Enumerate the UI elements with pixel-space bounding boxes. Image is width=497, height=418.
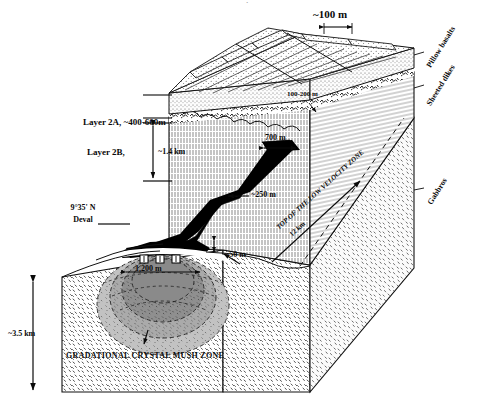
layer-2a-label: Layer 2A, ~400-600m	[83, 118, 166, 127]
melt-lens-thickness-label: ~50 m	[225, 251, 246, 259]
melt-lens-symbols	[140, 255, 180, 263]
mush-width-label: 1,200 m	[135, 265, 162, 273]
gabbro-front-face-right	[223, 250, 310, 392]
layer-2b-label: Layer 2B,	[87, 148, 125, 157]
mush-zone-label: GRADATIONAL CRYSTAL MUSH ZONE	[66, 352, 224, 360]
geological-block-diagram: · ~100 m 100-200 m Layer 2A, ~400-600m L…	[0, 0, 497, 418]
deval-label-line2: Deval	[60, 216, 106, 224]
ridge-width-label: ~100 m	[313, 9, 347, 21]
dim-layer-2a	[143, 95, 172, 118]
layer-2b-thickness-label: ~1.4 km	[158, 148, 185, 156]
melt-body-width-label: ~250 m	[251, 191, 276, 199]
deval-label-line1: 9°35' N	[60, 204, 106, 212]
dike-spacing-label: 100-200 m	[287, 91, 318, 98]
top-mark: ·	[246, 0, 248, 7]
melt-lens-width-label: 700 m	[265, 134, 286, 142]
block-depth-label: ~3.5 km	[8, 330, 35, 338]
dim-ridge-width	[324, 23, 352, 34]
right-face-layer-ticks	[414, 52, 424, 190]
